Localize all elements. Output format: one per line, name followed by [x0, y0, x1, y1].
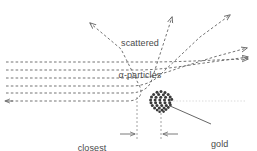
diagram-canvas: scattered α-particles closest approach g… [0, 0, 257, 151]
gold-nucleus-label: gold nucleus [211, 118, 255, 151]
scattered-label-line2: α-particles [104, 70, 176, 81]
closest-label-line1: closest [66, 143, 118, 151]
dimension-guides [137, 97, 161, 140]
closest-approach-label: closest approach [66, 122, 118, 151]
scattered-label-line1: scattered [104, 38, 176, 49]
gold-label-line1: gold [211, 139, 255, 150]
scattered-particles-label: scattered α-particles [104, 17, 176, 101]
gold-nucleus-leader-line [169, 106, 211, 125]
